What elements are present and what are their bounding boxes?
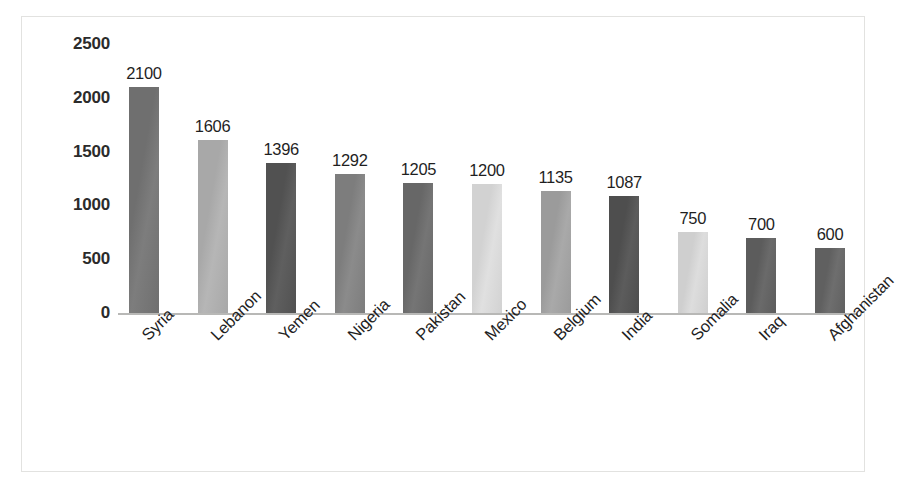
x-axis-label-syria: Syria bbox=[138, 305, 177, 344]
x-axis-label-afghanistan: Afghanistan bbox=[824, 271, 898, 345]
x-axis-category-labels: SyriaLebanonYemenNigeriaPakistanMexicoBe… bbox=[22, 17, 866, 473]
x-axis-label-iraq: Iraq bbox=[755, 311, 788, 344]
x-axis-label-yemen: Yemen bbox=[275, 296, 324, 345]
plot-area: 05001000150020002500 2100160613961292120… bbox=[22, 17, 866, 473]
x-axis-label-somalia: Somalia bbox=[687, 290, 742, 345]
x-axis-label-belgium: Belgium bbox=[550, 290, 605, 345]
x-axis-label-india: India bbox=[618, 306, 656, 344]
x-axis-label-mexico: Mexico bbox=[481, 295, 531, 345]
x-axis-label-lebanon: Lebanon bbox=[207, 287, 265, 345]
x-axis-label-nigeria: Nigeria bbox=[344, 295, 393, 344]
x-axis-label-pakistan: Pakistan bbox=[412, 287, 469, 344]
chart-frame: 05001000150020002500 2100160613961292120… bbox=[21, 16, 865, 472]
